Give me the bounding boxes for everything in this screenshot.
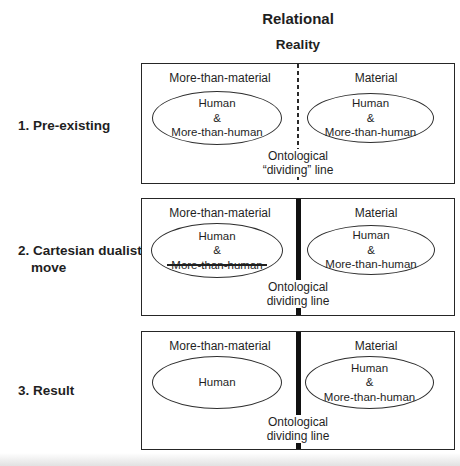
ellipse-text-line: Human [351, 361, 388, 376]
divider-label-line: Ontological [263, 149, 334, 163]
ellipse-text-line: Human [198, 96, 235, 111]
ellipse-text-line: & [213, 243, 221, 258]
ellipse-text-line: & [367, 243, 375, 258]
column-header-more-than-material: More-than-material [142, 339, 298, 353]
column-header-material: Material [298, 71, 454, 85]
stage-label-pre-existing: 1. Pre-existing [18, 117, 148, 134]
stage-label-line: 1. Pre-existing [18, 117, 148, 134]
column-header-more-than-material: More-than-material [142, 206, 298, 220]
ontological-divider-label: Ontological dividing line [261, 415, 336, 443]
ellipse-text-line: More-than-human [325, 257, 416, 272]
ellipse-text-line: More-than-human [325, 125, 416, 140]
ellipse-text-line-struck-through: More-than-human [171, 258, 262, 273]
ellipse-material: Human & More-than-human [305, 356, 434, 409]
ellipse-text-line: & [213, 111, 221, 126]
stage-label-cartesian-dualist-move: 2. Cartesian dualist move [18, 242, 148, 276]
scan-shadow-artifact [0, 453, 460, 466]
stage-label-line: move [18, 259, 148, 276]
ontological-divider-label: Ontological dividing line [261, 280, 336, 308]
ellipse-material: Human & More-than-human [307, 225, 435, 275]
stage-label-result: 3. Result [18, 382, 148, 399]
ellipse-text-line: Human [198, 375, 235, 390]
ellipse-more-than-material: Human & More-than-human [152, 91, 282, 145]
column-header-more-than-material: More-than-material [142, 71, 298, 85]
diagram-title-relational: Relational [141, 11, 455, 27]
ellipse-text-line: Human [198, 229, 235, 244]
panel-result: More-than-material Material Human Human … [141, 331, 455, 450]
ellipse-text-line: Human [352, 96, 389, 111]
ellipse-text-line: More-than-human [324, 390, 415, 405]
stage-label-line: 3. Result [18, 382, 148, 399]
divider-label-line: Ontological [267, 415, 330, 429]
panel-pre-existing: More-than-material Material Human & More… [141, 63, 455, 184]
ellipse-text-line: More-than-human [171, 125, 262, 140]
diagram-title-reality: Reality [141, 37, 455, 52]
divider-label-line: “dividing” line [263, 163, 334, 177]
ellipse-material: Human & More-than-human [307, 93, 434, 143]
stage-label-line: 2. Cartesian dualist [18, 242, 148, 259]
ellipse-text-line: Human [352, 228, 389, 243]
column-header-material: Material [298, 206, 454, 220]
ellipse-text-line: & [367, 111, 375, 126]
ellipse-more-than-material: Human & More-than-human [151, 223, 283, 278]
panel-cartesian-dualist-move: More-than-material Material Human & More… [141, 198, 455, 316]
divider-label-line: dividing line [267, 294, 330, 308]
divider-label-line: dividing line [267, 429, 330, 443]
ellipse-text-line: & [366, 375, 374, 390]
column-header-material: Material [298, 339, 454, 353]
ontological-divider-label: Ontological “dividing” line [257, 149, 340, 177]
divider-label-line: Ontological [267, 280, 330, 294]
ellipse-more-than-material: Human [152, 356, 282, 409]
